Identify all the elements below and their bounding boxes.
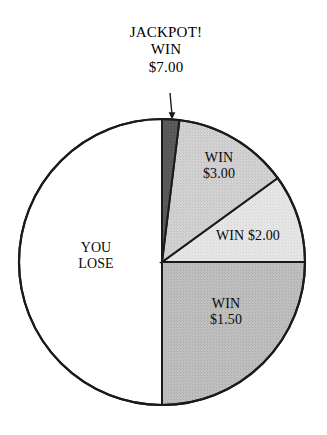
slice-label-win-2-line-1: WIN $2.00 (194, 228, 302, 244)
slice-label-you-lose-line-1: YOU (48, 240, 144, 256)
slice-label-you-lose: YOU LOSE (48, 240, 144, 272)
jackpot-callout-line-3: $7.00 (96, 59, 236, 76)
jackpot-callout-line-2: WIN (96, 41, 236, 58)
slice-label-you-lose-line-2: LOSE (48, 256, 144, 272)
slice-label-win-3: WIN $3.00 (186, 150, 252, 182)
slice-label-win-150: WIN $1.50 (186, 296, 266, 328)
slice-label-win-3-line-2: $3.00 (186, 166, 252, 182)
pie-slice-win-150 (162, 262, 305, 405)
callout-leader-line (170, 93, 172, 115)
jackpot-callout-label: JACKPOT! WIN $7.00 (96, 24, 236, 76)
jackpot-callout-line-1: JACKPOT! (96, 24, 236, 41)
slice-label-win-150-line-1: WIN (186, 296, 266, 312)
slice-label-win-150-line-2: $1.50 (186, 312, 266, 328)
slice-label-win-2: WIN $2.00 (194, 228, 302, 244)
pie-chart-figure: JACKPOT! WIN $7.00 YOU LOSE WIN $3.00 WI… (0, 0, 327, 435)
slice-label-win-3-line-1: WIN (186, 150, 252, 166)
